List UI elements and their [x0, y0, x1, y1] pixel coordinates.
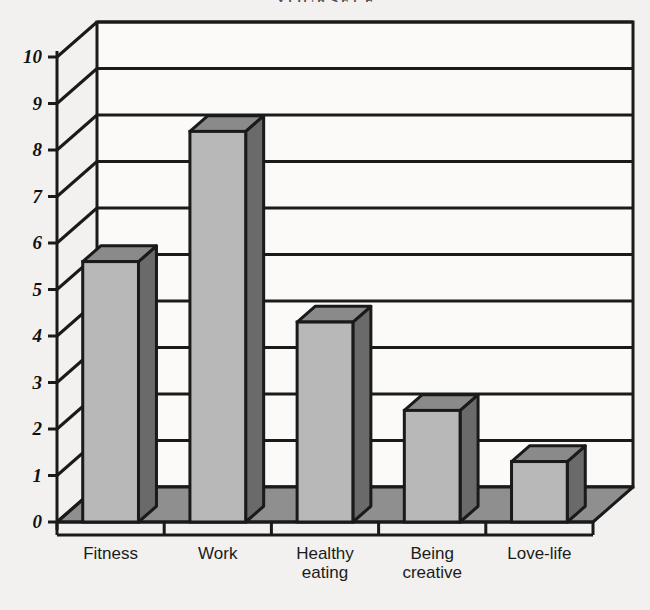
y-axis-tick-5: 5 — [8, 279, 42, 301]
y-axis-tick-1: 1 — [8, 465, 42, 487]
y-axis-tick-4: 4 — [8, 325, 42, 347]
x-axis-label-fitness: Fitness — [83, 544, 138, 563]
bar-love-life — [512, 446, 586, 522]
x-axis-label-love-life: Love-life — [507, 544, 571, 563]
y-axis-tick-8: 8 — [8, 139, 42, 161]
bar-being-creative — [404, 395, 478, 522]
y-axis-tick-6: 6 — [8, 232, 42, 254]
x-axis-label-being-creative: Being creative — [402, 544, 462, 582]
y-axis-tick-10: 10 — [8, 46, 42, 68]
category-ticks — [57, 522, 593, 535]
y-axis-tick-3: 3 — [8, 372, 42, 394]
x-axis-label-work: Work — [198, 544, 237, 563]
bar-chart: YOURSELF 109876543210 FitnessWorkHealthy… — [0, 0, 650, 610]
y-axis-tick-7: 7 — [8, 186, 42, 208]
bar-fitness — [83, 246, 157, 522]
bar-work — [190, 116, 264, 522]
y-axis-tick-9: 9 — [8, 93, 42, 115]
x-axis-label-healthy-eating: Healthy eating — [296, 544, 354, 582]
y-axis-tick-0: 0 — [8, 511, 42, 533]
y-axis-tick-2: 2 — [8, 418, 42, 440]
bar-healthy-eating — [297, 306, 371, 522]
chart-plot-area — [0, 0, 650, 610]
